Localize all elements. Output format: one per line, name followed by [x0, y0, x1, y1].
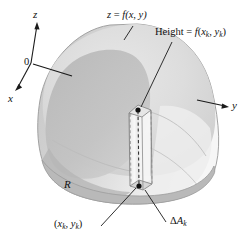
y-axis-label: y: [232, 100, 237, 111]
sample-point-close: ): [79, 218, 83, 229]
surface-equation-equals: =: [111, 9, 122, 20]
riemann-column: [129, 105, 152, 190]
z-axis-line: [31, 25, 37, 63]
height-label: Height = f(xk, yk): [155, 27, 226, 38]
y-axis-arrowhead: [221, 104, 229, 109]
height-label-close: ): [222, 26, 226, 37]
surface-equation-label: z = f(x, y): [107, 10, 147, 21]
z-axis-arrowhead: [34, 22, 39, 30]
x-axis-label: x: [8, 93, 13, 104]
bottom-sample-point-marker: [136, 183, 141, 188]
area-element-delta: Δ: [170, 215, 177, 226]
region-label-R: R: [64, 179, 71, 190]
origin-label: 0: [24, 57, 29, 68]
z-axis-label: z: [33, 9, 37, 20]
area-element-sub: k: [183, 219, 186, 228]
area-element-label: ΔAk: [170, 216, 187, 227]
column-face-right: [139, 110, 150, 186]
top-sample-point-marker: [135, 107, 140, 112]
height-label-prefix: Height =: [155, 26, 195, 37]
surface-equation-args: (x, y): [125, 9, 147, 20]
x-axis-arrowhead: [15, 84, 22, 91]
figure-double-integral-riemann-column: z x y 0 z = f(x, y) Height = f(xk, yk) (…: [0, 0, 243, 242]
sample-point-label: (xk, yk): [54, 219, 82, 230]
